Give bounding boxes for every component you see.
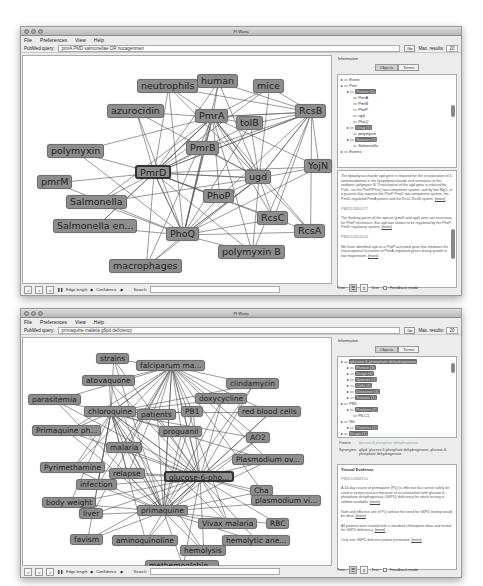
feedback-mode-checkbox[interactable]: [383, 286, 387, 290]
graph-node[interactable]: red blood cells: [238, 406, 301, 417]
graph-node[interactable]: relapse: [109, 468, 145, 479]
graph-node[interactable]: RcsC: [257, 211, 288, 225]
graph-node[interactable]: patients: [137, 409, 176, 420]
confidence-slider[interactable]: ◆: [120, 287, 123, 292]
network-graph[interactable]: humanneutrophilsmiceazurocidinPmrAtolBRc…: [22, 55, 332, 284]
zoom-in-icon[interactable]: ⌕: [24, 286, 32, 294]
zoom-out-icon[interactable]: ⌕: [35, 286, 43, 294]
tree-view-button[interactable]: ☰: [349, 566, 357, 574]
tab-objects[interactable]: Objects: [375, 64, 399, 71]
evidence-text-pane[interactable]: The lipopolysaccharide ugd gene is requi…: [337, 170, 457, 288]
menu-help[interactable]: Help: [94, 318, 104, 326]
tree-view-button[interactable]: ☰: [349, 284, 357, 292]
title-bar[interactable]: PI Wana: [21, 309, 461, 318]
graph-node[interactable]: doxycycline: [195, 393, 247, 404]
graph-node[interactable]: hemolytic ane...: [222, 535, 290, 546]
tree-item[interactable]: ▸ ▭ Drugs (1): [341, 431, 453, 437]
objects-tree[interactable]: ▸ ▭ Event▸ ▭ Prot▸ ▭ Protein (5)▭ PmrA▭ …: [337, 74, 457, 168]
graph-node[interactable]: pmrM: [37, 175, 72, 189]
graph-node[interactable]: PmrA: [195, 109, 228, 123]
more-link[interactable]: [more]: [370, 500, 380, 504]
menu-help[interactable]: Help: [94, 36, 104, 44]
graph-node[interactable]: tolB: [236, 116, 263, 130]
pmid-heading[interactable]: PMID11868150: [341, 477, 453, 482]
graph-node[interactable]: clindamycin: [226, 378, 279, 389]
pmid-heading[interactable]: PMID11819203: [341, 235, 453, 240]
graph-node[interactable]: chloroquine: [84, 406, 136, 417]
text-scrollbar[interactable]: [451, 229, 455, 259]
zoom-fit-icon[interactable]: ⌕: [46, 286, 54, 294]
zoom-window-button[interactable]: [38, 29, 43, 34]
go-button[interactable]: Go: [404, 327, 415, 334]
edge-length-slider[interactable]: ◆: [90, 569, 93, 574]
graph-node[interactable]: neutrophils: [137, 79, 198, 93]
pause-icon[interactable]: ❚❚: [57, 569, 63, 574]
graph-node[interactable]: RcsA: [294, 224, 325, 238]
graph-node[interactable]: macrophages: [109, 259, 182, 273]
menu-view[interactable]: View: [75, 318, 86, 326]
close-window-button[interactable]: [24, 311, 29, 316]
graph-node[interactable]: PB1: [181, 406, 203, 417]
go-button[interactable]: Go: [404, 45, 415, 52]
more-link[interactable]: [more]: [375, 528, 385, 532]
graph-node[interactable]: Vivax malaria: [198, 518, 257, 529]
evidence-text-pane[interactable]: Textual Evidence PMID11868150A 14-day co…: [337, 464, 457, 570]
tree-scrollbar[interactable]: [451, 363, 455, 373]
graph-node[interactable]: glucose-6-pho...: [164, 471, 234, 482]
graph-node[interactable]: polymyxin B: [218, 245, 285, 259]
graph-node[interactable]: strains: [96, 353, 129, 364]
pubmed-query-input[interactable]: pmrA PMD salmonellae OR nocagenmeri: [58, 45, 401, 52]
feedback-mode-checkbox[interactable]: [383, 568, 387, 572]
more-link[interactable]: [more]: [368, 254, 378, 258]
pubmed-query-input[interactable]: primaquine malaria g6pd deficiency: [58, 327, 401, 334]
objects-tree[interactable]: ▸ ▭ glucose-6-phosphate dehydrogenase▸ ▭…: [337, 356, 457, 438]
zoom-in-icon[interactable]: ⌕: [24, 568, 32, 576]
graph-node[interactable]: Pyrimethamine: [40, 462, 105, 473]
more-link[interactable]: [more]: [435, 197, 445, 201]
zoom-fit-icon[interactable]: ⌕: [46, 568, 54, 576]
graph-node[interactable]: malaria: [106, 442, 142, 453]
graph-node[interactable]: aminoquinoline: [112, 535, 178, 546]
graph-node[interactable]: hemolysis: [180, 545, 226, 556]
tree-scrollbar[interactable]: [451, 105, 455, 117]
menu-preferences[interactable]: Preferences: [40, 318, 67, 326]
graph-node[interactable]: falciparum ma...: [136, 360, 205, 371]
graph-node[interactable]: parasitemia: [28, 394, 81, 405]
graph-node[interactable]: AO2: [246, 432, 270, 443]
graph-node[interactable]: liver: [79, 508, 103, 519]
zoom-window-button[interactable]: [38, 311, 43, 316]
zoom-out-icon[interactable]: ⌕: [35, 568, 43, 576]
confidence-slider[interactable]: ◆: [120, 569, 123, 574]
graph-node[interactable]: mice: [253, 79, 284, 93]
graph-node[interactable]: infection: [76, 479, 117, 490]
menu-file[interactable]: File: [24, 318, 32, 326]
minimize-window-button[interactable]: [31, 29, 36, 34]
graph-node[interactable]: ugd: [245, 170, 271, 184]
more-link[interactable]: [more]: [382, 225, 392, 229]
pmid-heading[interactable]: PMID11830577: [341, 207, 453, 212]
graph-node[interactable]: azurocidin: [107, 104, 164, 118]
graph-node[interactable]: Salmonella en...: [53, 219, 137, 233]
graph-node[interactable]: Primaquine ph...: [32, 425, 101, 436]
tab-objects[interactable]: Objects: [375, 346, 399, 353]
more-link[interactable]: [more]: [411, 538, 421, 542]
search-input[interactable]: [150, 286, 280, 293]
graph-node[interactable]: YojN: [304, 159, 332, 173]
graph-node[interactable]: body weight: [42, 497, 96, 508]
max-results-input[interactable]: 20: [446, 327, 458, 334]
graph-node[interactable]: primaquine: [137, 505, 188, 516]
menu-preferences[interactable]: Preferences: [40, 36, 67, 44]
graph-node[interactable]: PhoQ: [166, 227, 199, 241]
network-graph[interactable]: strainsfalciparum ma...atovaquoneclindam…: [22, 337, 332, 566]
graph-node[interactable]: favism: [70, 534, 103, 545]
close-window-button[interactable]: [24, 29, 29, 34]
edge-length-slider[interactable]: ◆: [90, 287, 93, 292]
graph-node[interactable]: RBC: [266, 518, 289, 529]
graph-node[interactable]: human: [197, 74, 238, 88]
graph-node[interactable]: PhoP: [203, 189, 234, 203]
pause-icon[interactable]: ❚❚: [57, 287, 63, 292]
list-view-button[interactable]: ≡: [360, 566, 368, 574]
graph-node[interactable]: PmrB: [186, 141, 219, 155]
tab-terms[interactable]: Terms: [398, 64, 419, 71]
list-view-button[interactable]: ≡: [360, 284, 368, 292]
